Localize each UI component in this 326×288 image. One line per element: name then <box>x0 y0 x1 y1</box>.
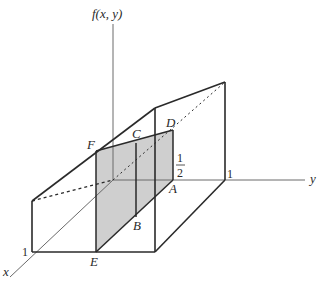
x-axis-label: x <box>2 264 9 279</box>
svg-text:2: 2 <box>177 166 183 180</box>
svg-text:1: 1 <box>177 151 183 165</box>
point-label-e: E <box>89 254 98 269</box>
3d-prism-diagram: f(x, y) y x 1 1 1 2 F C D A B E <box>0 0 326 288</box>
point-label-b: B <box>133 218 141 233</box>
half-fraction-label: 1 2 <box>176 151 185 180</box>
y-tick-one: 1 <box>227 167 233 181</box>
point-label-c: C <box>132 126 141 141</box>
x-tick-one: 1 <box>22 245 28 259</box>
point-label-a: A <box>168 181 177 196</box>
point-label-d: D <box>165 115 176 130</box>
f-axis-label: f(x, y) <box>92 6 122 21</box>
point-label-f: F <box>86 137 96 152</box>
y-axis-label: y <box>308 171 316 186</box>
